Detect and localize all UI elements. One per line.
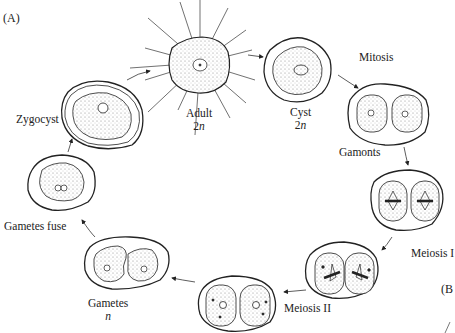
label-gametes: Gametes n bbox=[88, 297, 128, 323]
label-gamonts: Gamonts bbox=[339, 146, 381, 159]
label-mitosis: Mitosis bbox=[359, 51, 394, 64]
cyst-cell-icon bbox=[264, 38, 331, 102]
life-cycle-diagram bbox=[0, 0, 455, 333]
label-adult: Adult 2n bbox=[186, 107, 212, 133]
post-meiosis-cell-icon bbox=[198, 276, 275, 331]
label-zygocyst: Zygocyst bbox=[16, 113, 59, 126]
meiosis-two-cell-icon bbox=[306, 242, 379, 298]
panel-label-b: (B bbox=[441, 283, 453, 296]
zygocyst-cell-icon bbox=[62, 81, 143, 149]
label-meiosis-two: Meiosis II bbox=[284, 302, 331, 315]
gametes-cell-icon bbox=[85, 237, 169, 289]
meiosis-one-cell-icon bbox=[371, 170, 443, 230]
label-cyst: Cyst 2n bbox=[290, 106, 311, 132]
gametes-fuse-cell-icon bbox=[28, 155, 95, 210]
panel-b-edge bbox=[445, 322, 450, 333]
label-gametes-fuse: Gametes fuse bbox=[4, 220, 66, 233]
panel-label-a: (A) bbox=[3, 12, 20, 25]
gamonts-cell-icon bbox=[348, 84, 429, 145]
label-meiosis-one: Meiosis I bbox=[411, 247, 454, 260]
